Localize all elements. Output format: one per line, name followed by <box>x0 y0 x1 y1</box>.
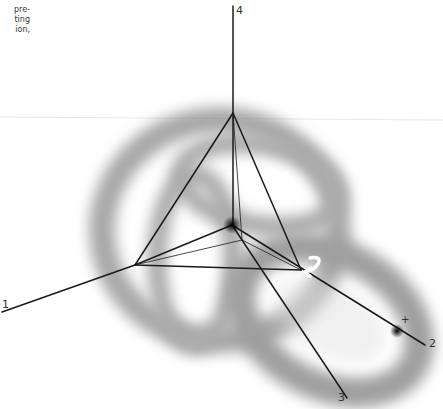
plus-marker-label: + <box>401 314 409 325</box>
charge-point <box>390 324 404 338</box>
tetrahedron-figure <box>0 0 443 409</box>
center-point <box>223 216 241 234</box>
axis-1-label: 1 <box>2 298 9 311</box>
axis-4-label: 4 <box>236 4 243 17</box>
axis-3-label: 3 <box>338 391 345 404</box>
axis-2-label: 2 <box>429 337 436 350</box>
rotation-arrow-icon <box>181 291 207 300</box>
blurred-surface <box>102 120 443 409</box>
rotation-arrow-icon <box>286 173 299 193</box>
